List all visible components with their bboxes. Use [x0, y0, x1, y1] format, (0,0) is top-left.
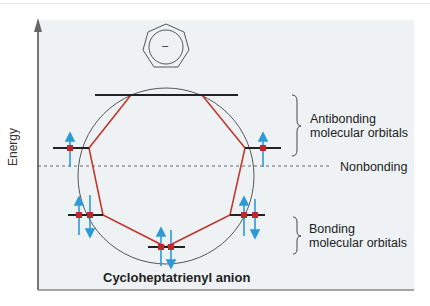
- antibonding-label-line1: Antibonding: [310, 112, 408, 126]
- frost-circle: [78, 88, 254, 264]
- bonding-label-line1: Bonding: [309, 222, 407, 236]
- heptagon: [89, 95, 245, 247]
- diagram-title: Cycloheptatrienyl anion: [103, 270, 250, 285]
- frost-circle-diagram: [0, 0, 430, 306]
- electron-dots: [67, 145, 266, 250]
- bonding-label: Bonding molecular orbitals: [309, 222, 407, 250]
- orbital-levels: [53, 95, 281, 247]
- antibonding-label: Antibonding molecular orbitals: [310, 112, 408, 140]
- axis-label-energy: Energy: [6, 128, 20, 166]
- antibonding-label-line2: molecular orbitals: [310, 126, 408, 140]
- charge-sign: –: [162, 38, 168, 52]
- bonding-label-line2: molecular orbitals: [309, 236, 407, 250]
- braces: [292, 95, 301, 254]
- nonbonding-label: Nonbonding: [340, 160, 407, 174]
